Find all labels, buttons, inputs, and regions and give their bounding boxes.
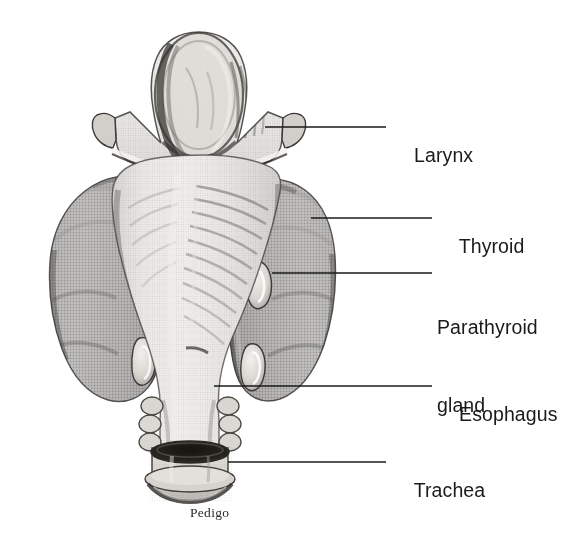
label-thyroid-text: Thyroid (459, 235, 525, 257)
anatomical-figure: Larynx Thyroid Parathyroid gland Esophag… (0, 0, 582, 545)
label-larynx-text: Larynx (414, 144, 473, 166)
label-trachea-text: Trachea (414, 479, 486, 501)
label-esophagus-text: Esophagus (459, 403, 557, 425)
label-parathyroid-gland-line1: Parathyroid (437, 314, 538, 340)
artist-signature: Pedigo (190, 505, 229, 521)
label-larynx: Larynx (392, 116, 473, 194)
parathyroid-inferior-right (241, 344, 265, 391)
label-esophagus: Esophagus (437, 375, 558, 453)
label-trachea: Trachea (392, 451, 485, 529)
trachea-lumen (151, 441, 229, 463)
